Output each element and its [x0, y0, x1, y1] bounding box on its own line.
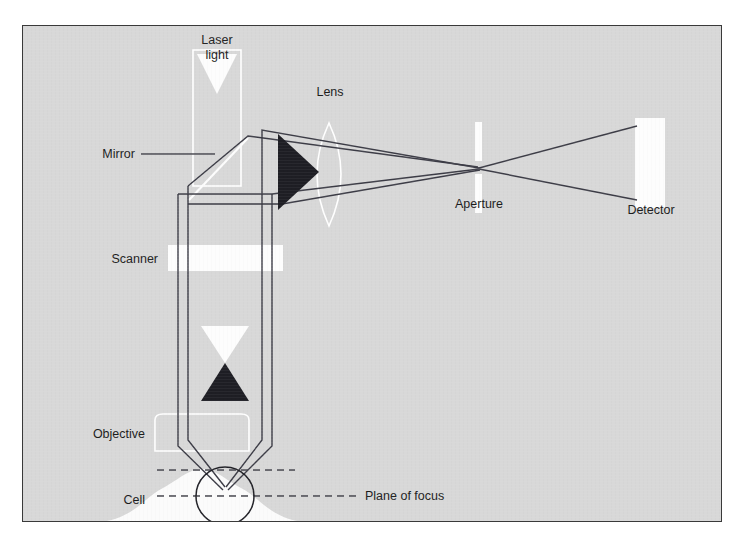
mirror-optic: [189, 138, 248, 200]
cell-label: Cell: [123, 493, 145, 507]
detector-optic: [635, 118, 665, 208]
lens-label: Lens: [316, 85, 343, 99]
lens-optic: [317, 123, 341, 226]
objective-optic: [155, 414, 249, 451]
beam-path-to-detector: [479, 126, 637, 200]
laser-light-label-line1: Laser: [201, 33, 232, 47]
scanner-optic: [168, 245, 283, 271]
aperture-label: Aperture: [455, 197, 503, 211]
figure-stage: Laser light Mirror Lens Aperture Detecto…: [0, 0, 742, 542]
laser-light-label-line2: light: [206, 48, 229, 62]
plane-of-focus-label: Plane of focus: [365, 489, 444, 503]
mirror-label: Mirror: [102, 147, 135, 161]
optical-path-diagram: Laser light Mirror Lens Aperture Detecto…: [23, 26, 722, 522]
emission-up-arrow-icon: [201, 363, 249, 401]
scanner-label: Scanner: [111, 252, 158, 266]
objective-label: Objective: [93, 427, 145, 441]
figure-frame: Laser light Mirror Lens Aperture Detecto…: [22, 25, 722, 522]
excitation-down-arrow-icon: [201, 326, 249, 363]
detector-label: Detector: [627, 203, 674, 217]
